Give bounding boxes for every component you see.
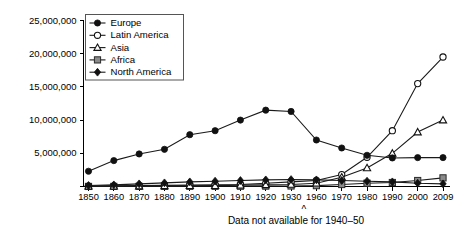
chart-annotation: ^Data not available for 1940–50: [228, 204, 365, 226]
x-axis-tick-label: 1980: [357, 192, 378, 202]
data-point-marker: [415, 80, 421, 86]
data-point-marker: [440, 155, 446, 161]
data-point-marker: [94, 57, 100, 63]
y-axis-tick-label: 15,000,000: [29, 81, 77, 92]
x-axis-tick-label: 2009: [433, 192, 454, 202]
chart-container: 5,000,00010,000,00015,000,00020,000,0002…: [0, 0, 463, 238]
data-point-marker: [288, 108, 294, 114]
chart-legend: EuropeLatin AmericaAsiaAfricaNorth Ameri…: [86, 15, 184, 81]
y-axis-tick-label: 5,000,000: [34, 147, 76, 158]
data-point-marker: [85, 168, 91, 174]
x-axis-tick-label: 1850: [78, 192, 99, 202]
y-axis-tick-label: 25,000,000: [29, 15, 77, 26]
line-chart-svg: 5,000,00010,000,00015,000,00020,000,0002…: [0, 0, 463, 238]
data-point-marker: [136, 151, 142, 157]
x-axis-tick-label: 1920: [255, 192, 276, 202]
data-point-marker: [363, 164, 370, 170]
legend-label: Africa: [111, 54, 136, 65]
data-point-marker: [339, 145, 345, 151]
x-axis-tick-label: 1970: [331, 192, 352, 202]
x-axis-tick-label: 1900: [205, 192, 226, 202]
annotation-caption: Data not available for 1940–50: [228, 215, 365, 226]
data-point-marker: [187, 132, 193, 138]
data-point-marker: [94, 20, 100, 26]
x-axis-tick-label: 1930: [281, 192, 302, 202]
data-point-marker: [237, 117, 243, 123]
data-point-marker: [212, 128, 218, 134]
legend-label: Asia: [111, 42, 130, 53]
x-axis-tick-label: 1990: [382, 192, 403, 202]
gap-marker-caret: ^: [301, 204, 306, 215]
data-point-marker: [111, 158, 117, 164]
data-point-marker: [414, 128, 421, 134]
data-point-marker: [389, 128, 395, 134]
data-point-marker: [389, 155, 395, 161]
data-point-marker: [263, 107, 269, 113]
legend-label: North America: [111, 66, 172, 77]
x-axis-tick-label: 1960: [306, 192, 327, 202]
x-axis-tick-label: 2000: [407, 192, 428, 202]
data-point-marker: [313, 137, 319, 143]
data-point-marker: [161, 146, 167, 152]
legend-label: Latin America: [111, 29, 170, 40]
x-axis-tick-label: 1860: [103, 192, 124, 202]
y-axis: 5,000,00010,000,00015,000,00020,000,0002…: [29, 15, 84, 187]
series-line: [89, 110, 444, 171]
data-point-marker: [439, 117, 446, 123]
x-axis-tick-label: 1890: [179, 192, 200, 202]
data-point-marker: [415, 155, 421, 161]
data-point-marker: [440, 54, 446, 60]
data-point-marker: [94, 32, 100, 38]
series-europe: [85, 107, 446, 174]
legend-label: Europe: [111, 17, 142, 28]
x-axis-tick-label: 1870: [129, 192, 150, 202]
data-point-marker: [364, 152, 370, 158]
y-axis-tick-label: 20,000,000: [29, 48, 77, 59]
x-axis-tick-label: 1910: [230, 192, 251, 202]
x-axis-tick-label: 1880: [154, 192, 175, 202]
y-axis-tick-label: 10,000,000: [29, 114, 77, 125]
